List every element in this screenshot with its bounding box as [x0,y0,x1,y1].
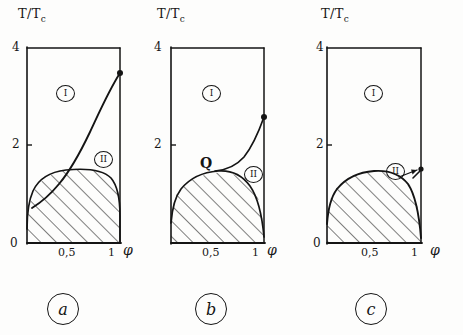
endpoint-dot-b [261,114,267,120]
upper-branch-curve-b [215,117,264,171]
panel-b: T/Tc 4 2 0,5 1 φ I II Q [152,0,307,335]
figure-phase-diagrams: T/Tc 4 2 0 0,5 1 φ I II [0,0,463,335]
hatched-region-c [326,163,422,245]
panel-letter-a: a [47,293,79,325]
endpoint-dot-a [117,70,123,76]
panel-a: T/Tc 4 2 0 0,5 1 φ I II [0,0,155,335]
hatched-region-b [170,165,266,245]
annotation-arrow-head-c [411,170,417,175]
panel-letter-c: c [355,293,387,325]
panel-a-plot [0,0,155,335]
panel-c: T/Tc 4 2 0 0,5 1 φ I II [303,0,458,335]
endpoint-dot-c [418,166,423,171]
panel-b-plot [152,0,307,335]
panel-c-plot [303,0,463,335]
panel-letter-b: b [195,293,227,325]
